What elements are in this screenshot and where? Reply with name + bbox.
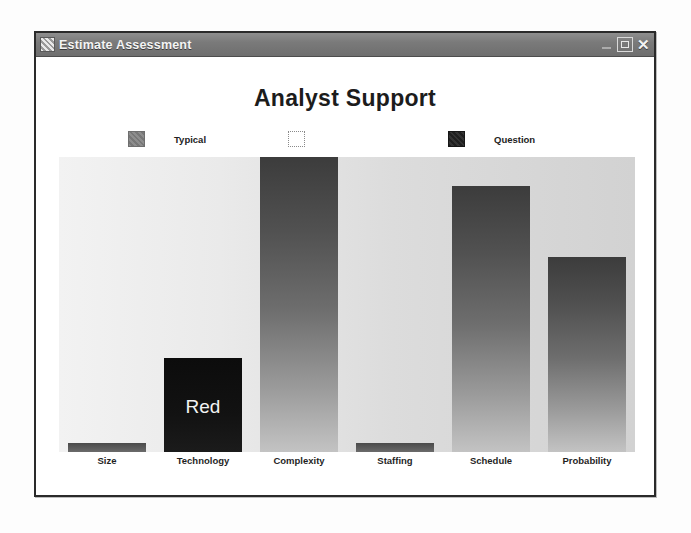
minimize-icon[interactable]	[599, 37, 615, 52]
bar-probability[interactable]	[548, 257, 626, 452]
x-tick-technology: Technology	[155, 455, 251, 466]
bar-schedule[interactable]	[452, 186, 530, 452]
maximize-icon[interactable]	[617, 37, 633, 52]
bar-staffing[interactable]	[356, 443, 434, 452]
app-icon	[40, 37, 55, 52]
chart-title: Analyst Support	[36, 85, 654, 112]
x-tick-staffing: Staffing	[347, 455, 443, 466]
x-tick-size: Size	[59, 455, 155, 466]
bar-complexity[interactable]	[260, 157, 338, 452]
window-controls: ✕	[599, 37, 654, 52]
screen: Estimate Assessment ✕ Analyst Support Ty…	[0, 0, 691, 533]
title-bar[interactable]: Estimate Assessment ✕	[36, 33, 654, 57]
legend-item-typical[interactable]: Typical	[128, 129, 206, 149]
x-tick-probability: Probability	[539, 455, 635, 466]
x-tick-schedule: Schedule	[443, 455, 539, 466]
legend-swatch-blank	[288, 131, 305, 147]
application-window: Estimate Assessment ✕ Analyst Support Ty…	[34, 31, 656, 497]
legend-swatch-typical	[128, 131, 145, 147]
close-icon[interactable]: ✕	[635, 37, 651, 52]
window-title: Estimate Assessment	[59, 38, 192, 52]
chart-legend: Typical Question	[36, 129, 654, 149]
client-area: Analyst Support Typical Question Red Siz…	[36, 57, 654, 495]
bar-size[interactable]	[68, 443, 146, 452]
x-tick-complexity: Complexity	[251, 455, 347, 466]
legend-swatch-question	[448, 131, 465, 147]
x-axis-labels: SizeTechnologyComplexityStaffingSchedule…	[59, 455, 635, 473]
plot-area: Red	[59, 157, 635, 452]
bar-annotation-technology: Red	[164, 396, 242, 418]
legend-item-blank[interactable]	[288, 129, 334, 149]
bar-technology[interactable]: Red	[164, 358, 242, 452]
legend-label-question: Question	[494, 134, 535, 145]
legend-item-question[interactable]: Question	[448, 129, 535, 149]
legend-label-typical: Typical	[174, 134, 206, 145]
